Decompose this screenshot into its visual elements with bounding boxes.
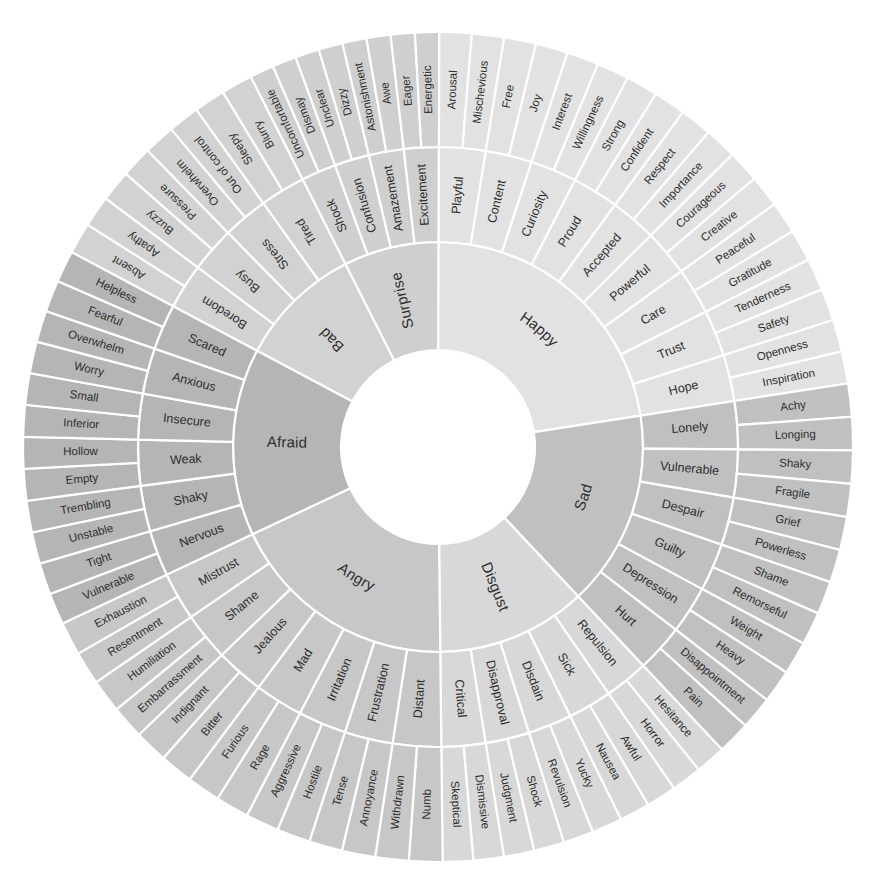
tertiary-label: Skeptical <box>449 780 463 827</box>
tertiary-label: Arousal <box>445 70 459 110</box>
wheel-center-hole <box>341 350 535 544</box>
tertiary-label: Energetic <box>421 65 434 114</box>
emotion-wheel-chart: BadBoredomAbsentApathyBusyBuzzyPressureS… <box>0 0 876 894</box>
secondary-label: Weak <box>170 452 203 468</box>
tertiary-label: Inferior <box>63 416 100 430</box>
secondary-label: Lonely <box>671 420 710 437</box>
emotion-wheel-container: BadBoredomAbsentApathyBusyBuzzyPressureS… <box>0 0 876 894</box>
tertiary-label: Shaky <box>779 457 812 471</box>
tertiary-label: Numb <box>420 789 433 820</box>
tertiary-label: Longing <box>775 428 816 441</box>
tertiary-label: Hollow <box>63 445 98 457</box>
secondary-label: Distant <box>411 678 428 718</box>
core-label-afraid: Afraid <box>267 433 308 451</box>
